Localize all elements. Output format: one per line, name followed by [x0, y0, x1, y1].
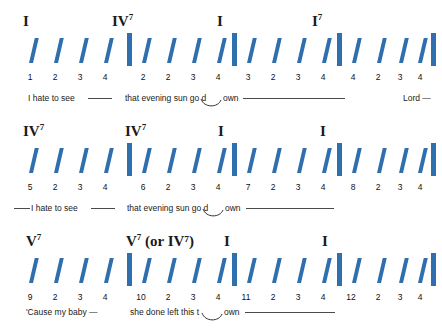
strum-slash [247, 148, 257, 173]
beat-number: 8 [346, 183, 360, 192]
chart-row-3: V7 V7 (or IV⁷) I I 9 2 3 4 10 2 3 4 11 2 [0, 220, 442, 330]
strum-slash [54, 148, 64, 173]
beat-number: 4 [211, 73, 225, 82]
beat-number: 2 [371, 183, 385, 192]
beat-number: 4 [211, 183, 225, 192]
chord-symbol-r3m2: V7 (or IV⁷) [126, 234, 194, 249]
strum-slash [104, 258, 114, 283]
beat-number: 2 [48, 183, 62, 192]
barline [431, 33, 436, 66]
strum-slash [142, 148, 152, 173]
beat-number: 5 [23, 183, 37, 192]
lyric-phrase: I hate to see [28, 94, 75, 103]
beat-number: 3 [393, 183, 407, 192]
barline [127, 33, 132, 66]
beat-number: 3 [73, 183, 87, 192]
barline [337, 143, 342, 176]
beat-number: 2 [266, 293, 280, 302]
slur-tie-icon [202, 209, 224, 219]
beat-number: 4 [211, 293, 225, 302]
strum-slash [377, 148, 387, 173]
beat-number: 3 [291, 73, 305, 82]
lyric-dash [246, 208, 334, 209]
beat-number: 6 [136, 183, 150, 192]
strum-slash [142, 258, 152, 283]
beat-number: 2 [266, 73, 280, 82]
strum-slash [247, 258, 257, 283]
strum-slash [29, 148, 39, 173]
strum-slash [272, 258, 282, 283]
barline [127, 143, 132, 176]
strum-slash [322, 38, 332, 63]
strum-slash [192, 258, 202, 283]
beat-number: 3 [291, 293, 305, 302]
lyric-phrase: 'Cause my baby — [26, 308, 98, 317]
beat-number: 4 [413, 183, 427, 192]
beat-number: 11 [239, 293, 253, 302]
beat-number: 4 [346, 73, 360, 82]
strum-slash [217, 38, 227, 63]
beat-number: 3 [393, 293, 407, 302]
chord-symbol-r1m3: I [217, 14, 223, 29]
strum-slash [418, 38, 428, 63]
strum-slash [54, 38, 64, 63]
beat-number: 4 [316, 183, 330, 192]
strum-slash [79, 148, 89, 173]
strum-slash [352, 258, 362, 283]
chord-symbol-r1m2: IV7 [112, 14, 133, 29]
lyric-dash [243, 98, 345, 99]
strum-slash [418, 148, 428, 173]
chord-symbol-r1m4: I7 [312, 14, 322, 29]
chord-symbol-r2m4: I [320, 124, 326, 139]
chord-symbol-r1m1: I [23, 14, 29, 29]
strum-slash [104, 148, 114, 173]
strum-slash [377, 38, 387, 63]
strum-slash [29, 258, 39, 283]
strum-slash [297, 258, 307, 283]
chord-symbol-r3m3: I [224, 234, 230, 249]
barline [337, 33, 342, 66]
beat-number: 4 [413, 293, 427, 302]
strum-slash [167, 148, 177, 173]
strum-slash [29, 38, 39, 63]
chart-row-1: I IV7 I I7 1 2 3 4 2 [0, 0, 442, 110]
strum-slash [217, 148, 227, 173]
strum-slash [192, 38, 202, 63]
strum-slash [54, 258, 64, 283]
beat-number: 2 [48, 73, 62, 82]
lyric-phrase: own [225, 204, 241, 213]
lyric-phrase: own [223, 94, 239, 103]
barline [431, 143, 436, 176]
blues-rhythm-chart: I IV7 I I7 1 2 3 4 2 [0, 0, 442, 335]
beat-number: 3 [393, 73, 407, 82]
strum-slash [104, 38, 114, 63]
beat-number: 2 [266, 183, 280, 192]
chart-row-2: IV7 IV7 I I 5 2 3 4 6 2 3 4 7 2 3 4 [0, 110, 442, 220]
lyric-phrase: she done left this t [130, 308, 199, 317]
lyric-dash [14, 208, 30, 209]
strum-slash [167, 38, 177, 63]
beat-number: 10 [134, 293, 148, 302]
strum-slash [418, 258, 428, 283]
lyric-phrase: that evening sun go d [125, 94, 206, 103]
lyric-dash [245, 312, 335, 313]
beat-number: 4 [98, 293, 112, 302]
beat-number: 4 [98, 183, 112, 192]
strum-slash [247, 38, 257, 63]
strum-slash [297, 148, 307, 173]
lyric-phrase: I hate to see [31, 204, 78, 213]
barline [431, 253, 436, 286]
strum-slash [217, 258, 227, 283]
beat-number: 4 [413, 73, 427, 82]
beat-number: 1 [23, 73, 37, 82]
chord-symbol-r2m3: I [218, 124, 224, 139]
strum-slash [142, 38, 152, 63]
beat-number: 3 [73, 73, 87, 82]
lyric-phrase: own [224, 308, 240, 317]
beat-number: 2 [161, 183, 175, 192]
strum-slash [322, 258, 332, 283]
beat-number: 4 [98, 73, 112, 82]
beat-number: 9 [23, 293, 37, 302]
chord-symbol-r3m1: V7 [26, 234, 41, 249]
lyric-phrase: that evening sun go d [127, 204, 208, 213]
